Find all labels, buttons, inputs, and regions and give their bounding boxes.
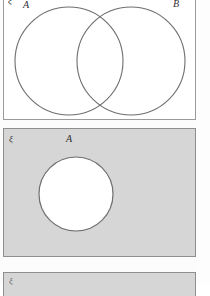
universal-set-symbol: ξ [9,134,13,144]
venn-circle-a-unshaded [38,151,118,235]
venn-panel-cropped: ξ [3,272,196,296]
universal-set-symbol: ξ [9,276,13,286]
venn-panel-intersection: ξ A B [3,0,196,120]
circle-a [39,157,113,231]
venn-circles-a-b [3,0,198,118]
circle-a [15,7,123,115]
page-margin [197,0,210,284]
set-label-a: A [66,133,72,144]
venn-panel-complement: ξ A [3,128,196,257]
